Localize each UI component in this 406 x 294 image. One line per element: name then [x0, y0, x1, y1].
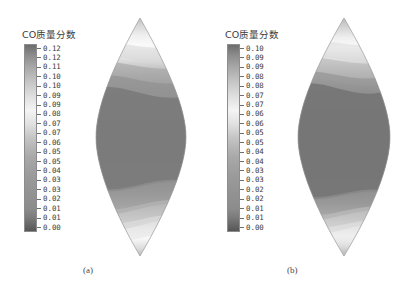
colorbar-tick-a-11: 0.05 — [37, 148, 61, 157]
colorbar-tick-b-13: 0.03 — [240, 166, 264, 175]
tick-mark-icon — [240, 208, 244, 209]
tick-mark-icon — [240, 105, 244, 106]
panel-b: CO质量分数 0.100.090.090.080.080.070.070.060… — [203, 0, 406, 294]
colorbar-tick-a-1: 0.12 — [37, 53, 61, 62]
colorbar-tick-a-14: 0.03 — [37, 176, 61, 185]
colorbar-tick-a-7: 0.08 — [37, 110, 61, 119]
contour-svg-a — [94, 16, 190, 258]
colorbar-legend-a: CO质量分数 0.120.120.110.100.100.090.090.080… — [21, 29, 103, 232]
tick-mark-icon — [37, 86, 41, 87]
figure-canvas: CO质量分数 0.120.120.110.100.100.090.090.080… — [0, 0, 406, 294]
tick-mark-icon — [37, 142, 41, 143]
colorbar-tick-b-5: 0.07 — [240, 91, 264, 100]
tick-mark-icon — [240, 95, 244, 96]
colorbar-b — [227, 44, 240, 232]
colorbar-tick-b-15: 0.02 — [240, 185, 264, 194]
colorbar-tick-label: 0.03 — [43, 176, 61, 184]
colorbar-tick-label: 0.12 — [43, 54, 61, 62]
tick-mark-icon — [37, 133, 41, 134]
tick-mark-icon — [37, 189, 41, 190]
tick-mark-icon — [37, 208, 41, 209]
colorbar-tick-a-15: 0.03 — [37, 185, 61, 194]
colorbar-tick-a-10: 0.06 — [37, 138, 61, 147]
colorbar-tick-a-19: 0.00 — [37, 223, 61, 232]
colorbar-tick-label: 0.06 — [246, 120, 264, 128]
colorbar-tick-label: 0.07 — [246, 101, 264, 109]
tick-mark-icon — [37, 227, 41, 228]
tick-mark-icon — [37, 161, 41, 162]
colorbar-tick-b-1: 0.09 — [240, 53, 264, 62]
colorbar-tick-label: 0.10 — [246, 45, 264, 53]
colorbar-title-b: CO质量分数 — [225, 29, 306, 41]
tick-mark-icon — [240, 133, 244, 134]
tick-mark-icon — [37, 114, 41, 115]
colorbar-tick-label: 0.08 — [246, 73, 264, 81]
tick-mark-icon — [37, 180, 41, 181]
colorbar-tick-b-7: 0.06 — [240, 110, 264, 119]
colorbar-tick-a-3: 0.10 — [37, 72, 61, 81]
colorbar-tick-label: 0.09 — [246, 63, 264, 71]
tick-mark-icon — [240, 218, 244, 219]
colorbar-tick-a-4: 0.10 — [37, 82, 61, 91]
colorbar-tick-b-10: 0.05 — [240, 138, 264, 147]
contour-bands-a — [94, 16, 190, 258]
colorbar-tick-label: 0.09 — [43, 92, 61, 100]
colorbar-tick-a-17: 0.01 — [37, 204, 61, 213]
colorbar-tick-label: 0.05 — [246, 129, 264, 137]
tick-mark-icon — [37, 152, 41, 153]
colorbar-title-a: CO质量分数 — [22, 29, 103, 41]
colorbar-tick-b-0: 0.10 — [240, 44, 264, 53]
contour-plot-b — [295, 16, 393, 258]
colorbar-tick-label: 0.01 — [43, 214, 61, 222]
colorbar-tick-label: 0.06 — [43, 139, 61, 147]
tick-mark-icon — [240, 76, 244, 77]
colorbar-tick-label: 0.05 — [43, 158, 61, 166]
colorbar-tick-label: 0.07 — [43, 120, 61, 128]
panel-caption-a: (a) — [83, 265, 93, 275]
colorbar-tick-label: 0.06 — [246, 110, 264, 118]
colorbar-tick-label: 0.02 — [246, 195, 264, 203]
tick-mark-icon — [240, 67, 244, 68]
colorbar-tick-a-13: 0.04 — [37, 166, 61, 175]
colorbar-tick-b-4: 0.08 — [240, 82, 264, 91]
colorbar-tick-b-12: 0.04 — [240, 157, 264, 166]
tick-mark-icon — [37, 199, 41, 200]
colorbar-tick-a-16: 0.02 — [37, 195, 61, 204]
tick-mark-icon — [37, 57, 41, 58]
tick-mark-icon — [240, 86, 244, 87]
colorbar-tick-label: 0.02 — [43, 195, 61, 203]
colorbar-tick-label: 0.02 — [246, 186, 264, 194]
colorbar-tick-label: 0.11 — [43, 63, 61, 71]
colorbar-tick-b-17: 0.01 — [240, 204, 264, 213]
colorbar-tick-label: 0.00 — [43, 224, 61, 232]
colorbar-tick-label: 0.07 — [246, 92, 264, 100]
tick-mark-icon — [240, 123, 244, 124]
colorbar-ticks-a: 0.120.120.110.100.100.090.090.080.070.07… — [37, 44, 101, 232]
tick-mark-icon — [240, 227, 244, 228]
colorbar-tick-b-18: 0.01 — [240, 214, 264, 223]
colorbar-tick-a-5: 0.09 — [37, 91, 61, 100]
colorbar-legend-b: CO质量分数 0.100.090.090.080.080.070.070.060… — [224, 29, 306, 232]
colorbar-tick-label: 0.01 — [246, 214, 264, 222]
colorbar-tick-label: 0.03 — [246, 167, 264, 175]
colorbar-tick-a-8: 0.07 — [37, 119, 61, 128]
colorbar-tick-label: 0.10 — [43, 82, 61, 90]
colorbar-tick-label: 0.04 — [246, 148, 264, 156]
tick-mark-icon — [240, 180, 244, 181]
colorbar-tick-label: 0.03 — [43, 186, 61, 194]
colorbar-tick-b-9: 0.05 — [240, 129, 264, 138]
colorbar-tick-label: 0.08 — [246, 82, 264, 90]
colorbar-tick-label: 0.04 — [246, 158, 264, 166]
colorbar-tick-a-0: 0.12 — [37, 44, 61, 53]
colorbar-tick-b-8: 0.06 — [240, 119, 264, 128]
tick-mark-icon — [37, 123, 41, 124]
tick-mark-icon — [240, 170, 244, 171]
colorbar-tick-label: 0.08 — [43, 110, 61, 118]
colorbar-tick-a-6: 0.09 — [37, 101, 61, 110]
tick-mark-icon — [240, 189, 244, 190]
tick-mark-icon — [240, 114, 244, 115]
colorbar-tick-label: 0.10 — [43, 73, 61, 81]
tick-mark-icon — [240, 161, 244, 162]
tick-mark-icon — [240, 57, 244, 58]
colorbar-tick-label: 0.01 — [246, 205, 264, 213]
